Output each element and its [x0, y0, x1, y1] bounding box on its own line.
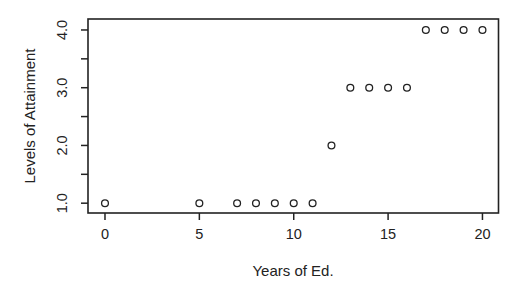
x-tick-label: 15: [380, 226, 396, 242]
data-point: [479, 27, 486, 34]
data-point: [422, 27, 429, 34]
x-tick-label: 5: [195, 226, 203, 242]
data-point: [460, 27, 467, 34]
x-tick-label: 20: [474, 226, 490, 242]
x-axis-title: Years of Ed.: [252, 262, 333, 279]
y-axis: 1.02.03.04.0: [54, 20, 88, 213]
x-tick-label: 0: [101, 226, 109, 242]
data-point: [290, 200, 297, 207]
data-point: [328, 142, 335, 149]
y-axis-title: Levels of Attainment: [21, 48, 38, 184]
data-point: [441, 27, 448, 34]
data-point: [366, 84, 373, 91]
data-point: [309, 200, 316, 207]
x-tick-label: 10: [286, 226, 302, 242]
y-tick-label: 3.0: [54, 78, 70, 98]
x-axis: 05101520: [101, 213, 491, 242]
data-point: [271, 200, 278, 207]
data-point: [234, 200, 241, 207]
scatter-plot-figure: 05101520 1.02.03.04.0 Years of Ed. Level…: [0, 0, 522, 291]
data-point: [385, 84, 392, 91]
data-points-layer: [102, 27, 486, 207]
scatter-plot: 05101520 1.02.03.04.0 Years of Ed. Level…: [0, 0, 522, 291]
plot-box: [88, 19, 499, 213]
data-point: [102, 200, 109, 207]
y-tick-label: 2.0: [54, 135, 70, 155]
data-point: [196, 200, 203, 207]
data-point: [404, 84, 411, 91]
plot-frame: [88, 19, 499, 213]
data-point: [347, 84, 354, 91]
y-tick-label: 4.0: [54, 20, 70, 40]
y-tick-label: 1.0: [54, 193, 70, 213]
data-point: [253, 200, 260, 207]
